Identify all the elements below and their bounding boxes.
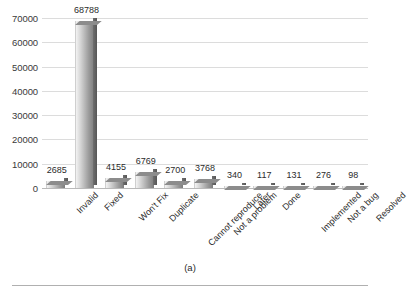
bar-side-face — [331, 183, 335, 185]
bar-value-label: 117 — [257, 170, 271, 180]
bar-value-label: 340 — [227, 170, 242, 180]
bar-slot: 68788 — [72, 18, 102, 188]
bar-value-label: 68788 — [74, 5, 99, 15]
bar-value-label: 6769 — [136, 156, 156, 166]
x-axis-category-label: Won't Fix — [137, 190, 170, 223]
bar-top-face — [164, 181, 191, 185]
bar-value-label: 4155 — [106, 162, 126, 172]
figure-caption: (a) — [0, 262, 380, 273]
bar-side-face — [301, 183, 305, 185]
bar[interactable] — [164, 177, 182, 188]
bar-slot: 276 — [309, 18, 339, 188]
footer-divider — [12, 285, 368, 286]
bar[interactable] — [75, 17, 93, 188]
bar-value-label: 276 — [316, 170, 331, 180]
bar[interactable] — [342, 182, 360, 188]
bar[interactable] — [224, 182, 242, 188]
y-axis-tick-label: 0 — [33, 183, 38, 194]
bar[interactable] — [135, 168, 153, 188]
bar-top-face — [105, 178, 132, 182]
bar-slot: 98 — [338, 18, 368, 188]
y-axis-tick-label: 60000 — [12, 37, 38, 48]
bar-slot: 340 — [220, 18, 250, 188]
bar[interactable] — [46, 177, 64, 188]
bar-slot: 6769 — [131, 18, 161, 188]
bar-value-label: 98 — [348, 170, 358, 180]
bar-slot: 2685 — [42, 18, 72, 188]
bar-value-label: 131 — [286, 170, 301, 180]
bar-slot: 117 — [249, 18, 279, 188]
bar[interactable] — [283, 182, 301, 188]
bar-front-face — [75, 21, 94, 188]
bar-slot: 4155 — [101, 18, 131, 188]
bar-top-face — [75, 21, 102, 25]
bar-side-face — [360, 183, 364, 185]
bar-value-label: 2700 — [165, 165, 185, 175]
bar[interactable] — [313, 182, 331, 188]
bar[interactable] — [194, 175, 212, 188]
bar-top-face — [135, 172, 162, 176]
bar-value-label: 2685 — [47, 165, 67, 175]
y-axis-tick-label: 30000 — [12, 110, 38, 121]
x-axis-category-label: Fixed — [103, 190, 126, 213]
bar-slot: 3768 — [190, 18, 220, 188]
x-axis-category-label: Invalid — [74, 190, 99, 215]
y-axis-tick-label: 50000 — [12, 61, 38, 72]
bar-slot: 2700 — [161, 18, 191, 188]
bar-top-face — [46, 181, 73, 185]
y-axis-tick-label: 20000 — [12, 134, 38, 145]
x-axis-category-label: Resolved — [374, 190, 408, 224]
x-axis-category-label: Duplicate — [167, 190, 201, 224]
bar[interactable] — [253, 182, 271, 188]
bar-side-face — [242, 183, 246, 185]
bar-top-face — [194, 179, 221, 183]
x-axis-category-label: Done — [281, 190, 303, 212]
y-axis-tick-label: 10000 — [12, 158, 38, 169]
x-axis-category-labels: InvalidFixedWon't FixDuplicateCannot rep… — [42, 190, 368, 260]
plot-area: 268568788415567692700376834011713127698 — [42, 18, 368, 188]
bar-value-label: 3768 — [195, 163, 215, 173]
bar-side-face — [271, 183, 275, 185]
bar-slot: 131 — [279, 18, 309, 188]
bar[interactable] — [105, 174, 123, 188]
bar-side-face — [93, 18, 97, 185]
y-axis-tick-label: 40000 — [12, 85, 38, 96]
y-axis-tick-label: 70000 — [12, 13, 38, 24]
y-axis-labels: 010000200003000040000500006000070000 — [0, 18, 40, 188]
bar-series: 268568788415567692700376834011713127698 — [42, 18, 368, 188]
